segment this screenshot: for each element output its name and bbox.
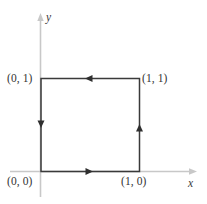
bottom-edge-arrow-right-icon (86, 168, 94, 175)
left-edge-arrow-down-icon (38, 121, 45, 129)
unit-square-path (41, 79, 140, 172)
vertex-label-top-left: (0, 1) (7, 72, 33, 84)
figure-container: (0, 1) (1, 1) (0, 0) (1, 0) y x (0, 0, 207, 204)
direction-arrowheads (38, 75, 144, 175)
vertex-label-top-right: (1, 1) (142, 72, 168, 84)
y-axis-label: y (46, 11, 51, 23)
y-axis-arrowhead (37, 13, 43, 21)
x-axis-label: x (188, 177, 193, 189)
x-axis-arrowhead (189, 168, 197, 174)
right-edge-arrow-up-icon (136, 124, 143, 132)
vertex-label-bottom-left: (0, 0) (7, 175, 33, 187)
top-edge-arrow-left-icon (85, 75, 93, 82)
unit-square-diagram (0, 0, 207, 204)
vertex-label-bottom-right: (1, 0) (121, 175, 147, 187)
square-outline (41, 79, 140, 172)
axes-group (10, 13, 197, 197)
